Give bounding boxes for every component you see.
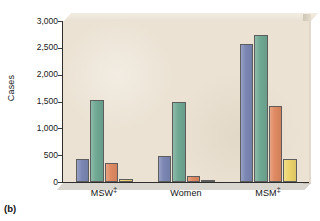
y-tick-label: 0 bbox=[18, 178, 58, 187]
bar-group bbox=[158, 21, 215, 182]
x-tick-label: MSM‡ bbox=[228, 188, 308, 198]
y-tick-label: 1,000 bbox=[18, 124, 58, 133]
bar-group bbox=[76, 21, 133, 182]
bar bbox=[76, 159, 90, 182]
bar bbox=[254, 35, 268, 182]
y-tick-label: 500 bbox=[18, 151, 58, 160]
x-tick-label: MSW‡ bbox=[64, 188, 144, 198]
bar bbox=[158, 156, 172, 182]
figure-caption: (b) bbox=[4, 203, 16, 214]
bar bbox=[269, 106, 283, 182]
y-axis-tick-labels: 05001,0001,5002,0002,5003,000 bbox=[18, 0, 58, 221]
bar bbox=[283, 159, 297, 182]
x-tick-footnote-marker: ‡ bbox=[113, 186, 117, 193]
y-tick-label: 3,000 bbox=[18, 17, 58, 26]
x-axis-line bbox=[62, 182, 309, 183]
y-tick-label: 2,500 bbox=[18, 43, 58, 52]
bar bbox=[187, 176, 201, 182]
bar bbox=[172, 102, 186, 182]
y-tick-label: 1,500 bbox=[18, 97, 58, 106]
x-tick-label: Women bbox=[146, 188, 226, 198]
bar bbox=[119, 179, 133, 182]
figure-panel-b: Cases 05001,0001,5002,0002,5003,000 MSW‡… bbox=[0, 0, 320, 221]
bar bbox=[201, 180, 215, 182]
x-tick-footnote-marker: ‡ bbox=[277, 186, 281, 193]
bar bbox=[240, 44, 254, 182]
y-tick-label: 2,000 bbox=[18, 70, 58, 79]
bar bbox=[105, 163, 119, 182]
bar bbox=[90, 100, 104, 182]
bar-group bbox=[240, 21, 297, 182]
y-axis-label: Cases bbox=[6, 58, 16, 118]
plot-area bbox=[63, 21, 309, 182]
